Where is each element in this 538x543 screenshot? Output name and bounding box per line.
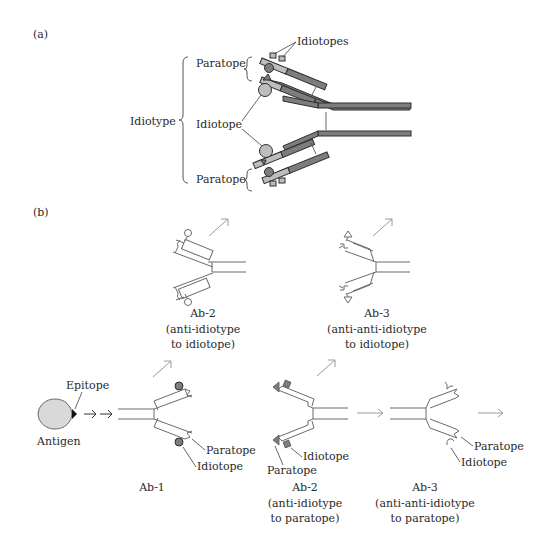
epitope-triangle [72,409,77,419]
ab3-idiotope-side-leader [451,448,460,462]
ab2-idiotope-square-bottom [283,440,291,448]
ab1-antibody [118,382,192,446]
paratope-bottom-label: Paratope [196,173,246,186]
idiotope-square-3 [270,181,276,186]
ab2-paratope-side-label: Paratope [267,464,317,477]
idiotope-label: Idiotope [196,118,242,131]
ab2-paratope-title: Ab-2 [291,481,318,494]
idiotope-leader-top [242,95,261,121]
epitope-leader [75,392,82,409]
idiotope-leader-bottom [242,129,262,146]
ab2-open-circle-top [185,230,192,237]
ab2-paratope-desc-2: to paratope) [271,512,340,525]
paratope-top-label: Paratope [196,57,246,70]
ab1-idiotope-dot-bottom [175,438,183,446]
ab3-paratope-side-label: Paratope [474,440,524,453]
ab2-paratope-antibody [273,380,348,448]
ab3-idiotope-desc-2: to idiotope) [345,338,409,351]
ab2-idiotope-arrow [209,219,228,236]
ab3-idiotope-antibody [339,231,410,303]
ab2-paratope-arrow [317,360,335,376]
ab2-paratope-triangle-bottom [273,435,279,445]
ab3-idiotope-cup-bottom [447,439,454,445]
idiotope-square-4 [279,178,285,183]
ab2-idiotope-side-label: Idiotope [303,450,349,463]
ab3-open-triangle-bottom [344,297,352,303]
ab3-paratope-desc-2: to paratope) [391,512,460,525]
idiotope-square-2 [279,56,285,61]
ab2-idiotope-side-leader [291,448,302,457]
paratope-circle-bottom [265,168,274,177]
ab3-open-triangle-top [344,231,352,237]
panel-b-label: (b) [33,206,49,219]
ab2-paratope-side-leader [275,446,283,465]
ab1-paratope-label: Paratope [206,444,256,457]
idiotype-label: Idiotype [130,115,176,128]
ab1-idiotope-leader [183,447,196,467]
ab3-idiotope-desc-1: (anti-anti-idiotype [327,323,427,336]
ab2-idiotope-desc-1: (anti-idiotype [166,323,240,336]
idiotopes-label: Idiotopes [297,35,349,48]
ab2-paratope-triangle-top [273,382,279,392]
ab1-idiotope-label: Idiotope [197,460,243,473]
antigen-label: Antigen [36,435,81,448]
ab3-paratope-arrow [478,409,503,417]
stem [283,96,411,150]
ab1-arrow [153,361,171,377]
idiotope-circle-top [259,84,272,97]
antigen-to-ab1-arrows [84,410,112,418]
antigen [38,399,77,429]
idiotype-diagram: (a) [0,0,538,543]
panel-a-label: (a) [33,28,48,41]
antigen-blob [38,399,72,429]
ab1-paratope-leader [192,439,205,450]
ab2-paratope-desc-1: (anti-idiotype [268,497,342,510]
ab3-paratope-desc-1: (anti-anti-idiotype [375,497,475,510]
idiotope-circle-bottom [260,145,273,158]
idiotopes-leader-2 [283,42,296,57]
ab3-paratope-side-leader [461,437,473,446]
epitope-label: Epitope [66,379,109,392]
ab3-paratope-title: Ab-3 [411,481,438,494]
ab2-idiotope-antibody [173,230,246,306]
paratope-triangle-top [263,74,271,80]
ab3-idiotope-title: Ab-3 [363,307,390,320]
ab2-open-circle-bottom [185,299,192,306]
ab1-title: Ab-1 [138,481,165,494]
ab3-idiotope-side-label: Idiotope [461,456,507,469]
ab3-paratope-antibody [390,382,459,445]
ab3-idiotope-cup-top [445,382,453,389]
ab2-idiotope-title: Ab-2 [189,307,216,320]
idiotopes-leader-1 [274,42,296,54]
ab2-idiotope-desc-2: to idiotope) [171,338,235,351]
ab2-to-ab3-arrow [357,409,383,417]
idiotype-brace [179,57,188,183]
ab1-idiotope-dot-top [175,382,183,390]
ab3-idiotope-arrow [373,219,392,236]
paratope-circle-top [265,64,274,73]
